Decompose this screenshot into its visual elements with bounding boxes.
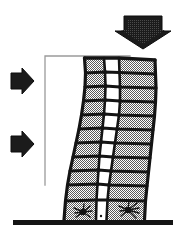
lateral-load-arrow-lower	[11, 131, 34, 157]
vertical-load-arrow	[115, 16, 171, 49]
figure-root: Seismic drift / soft-storey collapse mec…	[0, 0, 186, 237]
ground-line	[13, 220, 173, 225]
seismic-collapse-diagram	[0, 0, 186, 237]
base-debris-speck	[100, 215, 102, 217]
lateral-load-arrow-upper	[11, 68, 34, 94]
